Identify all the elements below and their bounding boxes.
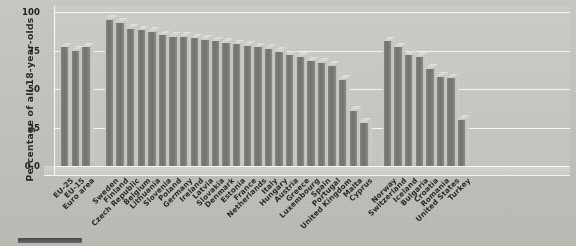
bar-front-face	[436, 77, 444, 166]
bar	[71, 51, 78, 167]
bar-front-face	[349, 111, 357, 166]
bar	[158, 35, 165, 166]
bar	[383, 41, 390, 166]
bar	[393, 47, 400, 166]
bar	[457, 120, 464, 166]
bar-front-face	[158, 35, 166, 166]
x-axis-labels: EU-25EU-15Euro areaSwedenFinlandCzech Re…	[44, 176, 574, 246]
bar-front-face	[211, 41, 219, 166]
bar-front-face	[457, 120, 465, 166]
page-edge-mark	[18, 238, 82, 243]
bar	[243, 46, 250, 166]
bar-front-face	[179, 37, 187, 166]
bar	[200, 40, 207, 166]
bar	[446, 78, 453, 166]
bar	[147, 32, 154, 166]
bar-front-face	[190, 38, 198, 166]
bar-front-face	[317, 63, 325, 166]
bar-front-face	[60, 47, 68, 166]
bar-series	[44, 6, 570, 176]
bar-front-face	[126, 29, 134, 166]
bar	[415, 57, 422, 166]
bar	[105, 20, 112, 166]
bar	[274, 52, 281, 166]
bar-front-face	[393, 47, 401, 166]
bar-front-face	[147, 32, 155, 166]
bar-front-face	[285, 55, 293, 166]
bar	[404, 55, 411, 166]
bar	[221, 43, 228, 166]
bar-front-face	[81, 47, 89, 166]
bar-front-face	[383, 41, 391, 166]
bar-front-face	[200, 40, 208, 166]
bar-front-face	[221, 43, 229, 166]
bar	[359, 123, 366, 166]
bar-front-face	[105, 20, 113, 166]
y-axis-ticks: 0.0255075100	[6, 0, 40, 246]
bar-front-face	[115, 23, 123, 166]
bar-front-face	[327, 66, 335, 166]
bar	[285, 55, 292, 166]
bar	[306, 61, 313, 166]
bar-front-face	[168, 37, 176, 166]
bar-front-face	[338, 80, 346, 166]
bar	[137, 30, 144, 166]
bar-front-face	[359, 123, 367, 166]
bar	[349, 111, 356, 166]
bar-front-face	[264, 49, 272, 166]
y-axis-tick-label: 50	[6, 84, 40, 94]
y-axis-tick-label: 0.0	[6, 161, 40, 171]
bar-front-face	[137, 30, 145, 166]
bar	[60, 47, 67, 166]
bar-front-face	[306, 61, 314, 166]
bar	[296, 57, 303, 166]
bar-front-face	[274, 52, 282, 166]
y-axis-tick-label: 75	[6, 46, 40, 56]
bar-front-face	[232, 44, 240, 166]
bar	[253, 47, 260, 166]
chart-page: Percentage of all 18-year-olds 0.0255075…	[0, 0, 576, 246]
y-axis-tick-label: 25	[6, 123, 40, 133]
bar	[232, 44, 239, 166]
bar-front-face	[71, 51, 79, 167]
bar	[264, 49, 271, 166]
bar	[81, 47, 88, 166]
bar	[327, 66, 334, 166]
bar-front-face	[404, 55, 412, 166]
plot-area	[44, 6, 570, 176]
bar-front-face	[425, 69, 433, 166]
bar-front-face	[296, 57, 304, 166]
bar	[168, 37, 175, 166]
bar	[179, 37, 186, 166]
bar-front-face	[415, 57, 423, 166]
bar-front-face	[446, 78, 454, 166]
bar	[211, 41, 218, 166]
bar-front-face	[253, 47, 261, 166]
bar	[317, 63, 324, 166]
bar	[338, 80, 345, 166]
y-axis-tick-label: 100	[6, 7, 40, 17]
bar	[115, 23, 122, 166]
bar	[436, 77, 443, 166]
bar	[190, 38, 197, 166]
bar	[425, 69, 432, 166]
bar	[126, 29, 133, 166]
bar-front-face	[243, 46, 251, 166]
